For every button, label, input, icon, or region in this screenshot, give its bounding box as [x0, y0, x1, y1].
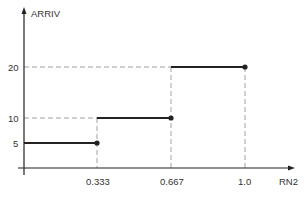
x-tick-1: 1.0 [238, 176, 251, 187]
y-tick-20: 20 [8, 62, 19, 73]
endpoint-3 [242, 64, 247, 69]
endpoint-2 [168, 115, 173, 120]
endpoint-1 [94, 140, 99, 145]
x-tick-0333: 0.333 [86, 176, 110, 187]
x-axis-arrow-icon [288, 166, 295, 171]
y-axis-arrow-icon [22, 7, 27, 14]
step-segments [24, 67, 245, 143]
step-function-chart: ARRIV RN2 20 10 5 0.333 0.667 1.0 [0, 0, 306, 211]
y-tick-5: 5 [13, 138, 18, 149]
y-axis-label: ARRIV [31, 8, 61, 19]
x-tick-0667: 0.667 [160, 176, 184, 187]
axes [18, 12, 290, 175]
y-tick-10: 10 [8, 113, 19, 124]
x-axis-label: RN2 [279, 176, 298, 187]
